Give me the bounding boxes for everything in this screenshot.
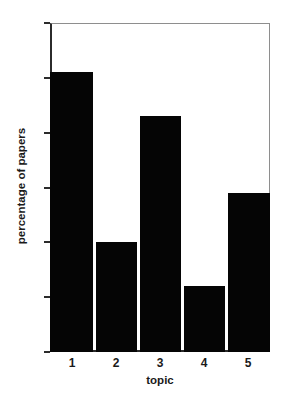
x-tick-label-2: 2 <box>94 356 138 370</box>
bar-topic-5 <box>228 193 271 352</box>
bar-chart-figure: percentage of papers 0102030405060 12345… <box>0 0 285 407</box>
bar-topic-3 <box>140 116 181 352</box>
x-axis-title: topic <box>50 374 270 386</box>
y-axis-title: percentage of papers <box>15 96 27 276</box>
x-tick-label-3: 3 <box>138 356 182 370</box>
x-tick-label-5: 5 <box>226 356 270 370</box>
bar-topic-4 <box>184 286 225 352</box>
bar-series-group <box>50 23 270 352</box>
bar-topic-2 <box>96 242 137 352</box>
bar-topic-1 <box>50 72 93 352</box>
x-tick-label-4: 4 <box>182 356 226 370</box>
x-tick-label-1: 1 <box>50 356 94 370</box>
